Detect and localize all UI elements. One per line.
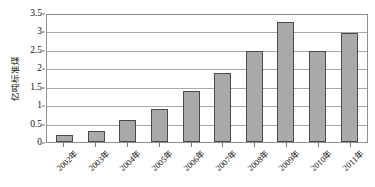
y-axis-label-text: 亿吨标准煤	[11, 56, 20, 101]
x-tick-label: 2011年	[341, 149, 366, 173]
y-tick-mark	[42, 106, 45, 107]
y-tick-mark	[42, 124, 45, 125]
y-axis-label: 亿吨标准煤	[8, 28, 22, 128]
x-tick-label: 2003年	[87, 149, 112, 173]
x-tick-label: 2007年	[214, 149, 239, 173]
bar[interactable]	[88, 131, 105, 142]
x-label-slot: 2002年	[48, 147, 80, 187]
bar[interactable]	[183, 91, 200, 142]
bar[interactable]	[341, 33, 358, 142]
y-tick-mark	[42, 50, 45, 51]
x-tick-label: 2010年	[309, 149, 334, 173]
bar[interactable]	[246, 51, 263, 142]
x-label-slot: 2008年	[239, 147, 271, 187]
bar[interactable]	[214, 73, 231, 142]
bar-slot	[207, 15, 239, 142]
x-label-slot: 2003年	[80, 147, 112, 187]
bar-slot	[270, 15, 302, 142]
x-tick-label: 2002年	[55, 149, 80, 173]
bar-series	[47, 15, 367, 142]
bar-slot	[112, 15, 144, 142]
x-tick-label: 2006年	[182, 149, 207, 173]
y-axis-tick-labels: 00.511.522.533.5	[22, 14, 45, 143]
x-tick-label: 2005年	[150, 149, 175, 173]
x-label-slot: 2010年	[302, 147, 334, 187]
bar[interactable]	[277, 22, 294, 142]
bar[interactable]	[309, 51, 326, 142]
y-tick-mark	[42, 14, 45, 15]
x-label-slot: 2009年	[271, 147, 303, 187]
bar-slot	[302, 15, 334, 142]
bar-slot	[49, 15, 81, 142]
x-tick-label: 2004年	[119, 149, 144, 173]
bar-slot	[239, 15, 271, 142]
y-tick-mark	[42, 143, 45, 144]
bar-slot	[333, 15, 365, 142]
x-label-slot: 2006年	[175, 147, 207, 187]
bar[interactable]	[119, 120, 136, 142]
y-tick-label: 2.5	[30, 46, 42, 56]
y-tick-mark	[42, 87, 45, 88]
x-tick-label: 2008年	[246, 149, 271, 173]
bar-slot	[81, 15, 113, 142]
x-label-slot: 2007年	[207, 147, 239, 187]
x-tick-label: 2009年	[278, 149, 303, 173]
x-axis-tick-labels: 2002年2003年2004年2005年2006年2007年2008年2009年…	[46, 147, 368, 187]
bar-slot	[175, 15, 207, 142]
bar[interactable]	[56, 135, 73, 142]
x-label-slot: 2005年	[143, 147, 175, 187]
y-tick-label: 0.5	[30, 120, 42, 130]
x-label-slot: 2011年	[334, 147, 366, 187]
x-label-slot: 2004年	[112, 147, 144, 187]
bar[interactable]	[151, 109, 168, 142]
y-tick-mark	[42, 32, 45, 33]
y-tick-label: 1.5	[30, 83, 42, 93]
plot-area	[46, 14, 368, 143]
y-tick-mark	[42, 69, 45, 70]
bar-slot	[144, 15, 176, 142]
y-tick-label: 3.5	[30, 9, 42, 19]
bar-chart: 亿吨标准煤 00.511.522.533.5 2002年2003年2004年20…	[0, 0, 375, 187]
